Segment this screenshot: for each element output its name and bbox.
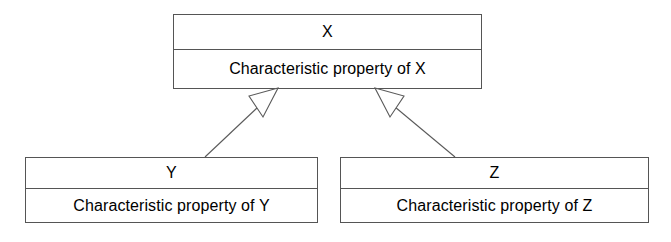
uml-class-z[interactable]: Z Characteristic property of Z: [340, 157, 649, 223]
uml-class-x-attribute: Characteristic property of X: [174, 50, 481, 88]
generalization-line-z-to-x: [395, 107, 455, 157]
uml-class-z-attribute: Characteristic property of Z: [341, 189, 648, 222]
uml-class-y-attribute: Characteristic property of Y: [26, 189, 317, 222]
uml-class-y-name: Y: [26, 158, 317, 189]
generalization-arrow-z-to-x: [375, 88, 455, 157]
generalization-arrow-y-to-x: [205, 88, 278, 157]
uml-class-z-name: Z: [341, 158, 648, 189]
hollow-triangle-arrowhead-icon: [249, 88, 278, 117]
uml-class-x[interactable]: X Characteristic property of X: [173, 14, 482, 89]
uml-class-x-name: X: [174, 15, 481, 50]
generalization-line-y-to-x: [205, 107, 258, 157]
uml-class-diagram: X Characteristic property of X Y Charact…: [0, 0, 671, 242]
uml-class-y[interactable]: Y Characteristic property of Y: [25, 157, 318, 223]
hollow-triangle-arrowhead-icon: [375, 88, 404, 117]
